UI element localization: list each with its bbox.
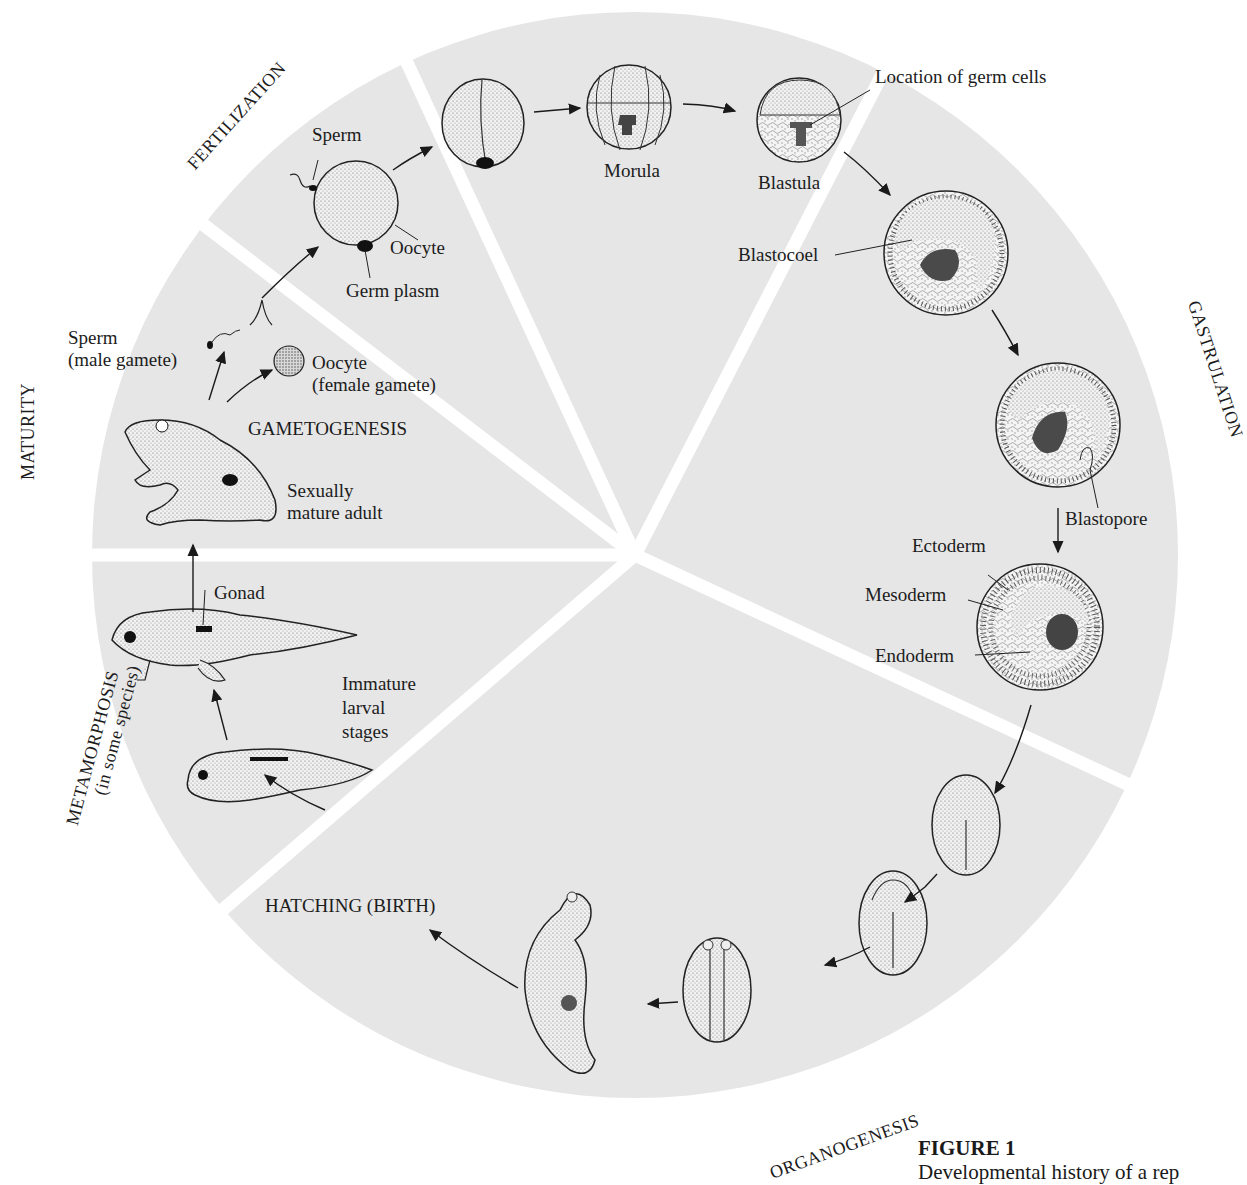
label-sperm-male: Sperm (male gamete) (68, 327, 177, 371)
label-adult-line2: mature adult (287, 502, 383, 524)
neural-tube-drawing (683, 938, 751, 1042)
label-immature-larval: Immature larval stages (342, 672, 416, 744)
label-blastocoel: Blastocoel (738, 244, 818, 266)
figure-caption: Developmental history of a rep (918, 1160, 1179, 1185)
label-location-germ-cells: Location of germ cells (875, 66, 1046, 88)
label-adult: Sexually mature adult (287, 480, 383, 524)
stage-label-maturity: MATURITY (18, 383, 39, 480)
label-immature-line3: stages (342, 720, 416, 744)
label-mesoderm: Mesoderm (865, 584, 946, 606)
label-morula: Morula (604, 160, 660, 182)
label-oocyte-female-line2: (female gamete) (312, 374, 436, 396)
figure-title: FIGURE 1 (918, 1136, 1015, 1161)
morula-drawing (587, 65, 671, 150)
neural-fold-drawing (859, 871, 927, 975)
label-adult-line1: Sexually (287, 480, 383, 502)
label-gametogenesis: GAMETOGENESIS (248, 418, 407, 440)
label-sperm-male-line2: (male gamete) (68, 349, 177, 371)
label-sperm-male-line1: Sperm (68, 327, 177, 349)
two-cell-embryo-drawing (442, 79, 524, 169)
label-blastopore: Blastopore (1065, 508, 1147, 530)
label-blastula: Blastula (758, 172, 820, 194)
label-ectoderm: Ectoderm (912, 535, 986, 557)
neural-plate-drawing (932, 775, 1000, 875)
label-immature-line1: Immature (342, 672, 416, 696)
label-oocyte-female-line1: Oocyte (312, 352, 436, 374)
label-gonad: Gonad (214, 582, 265, 604)
label-oocyte: Oocyte (390, 237, 445, 259)
label-oocyte-female: Oocyte (female gamete) (312, 352, 436, 396)
label-endoderm: Endoderm (875, 645, 954, 667)
label-immature-line2: larval (342, 696, 416, 720)
label-sperm: Sperm (312, 124, 362, 146)
label-germ-plasm: Germ plasm (346, 280, 439, 302)
label-hatching: HATCHING (BIRTH) (265, 895, 435, 917)
